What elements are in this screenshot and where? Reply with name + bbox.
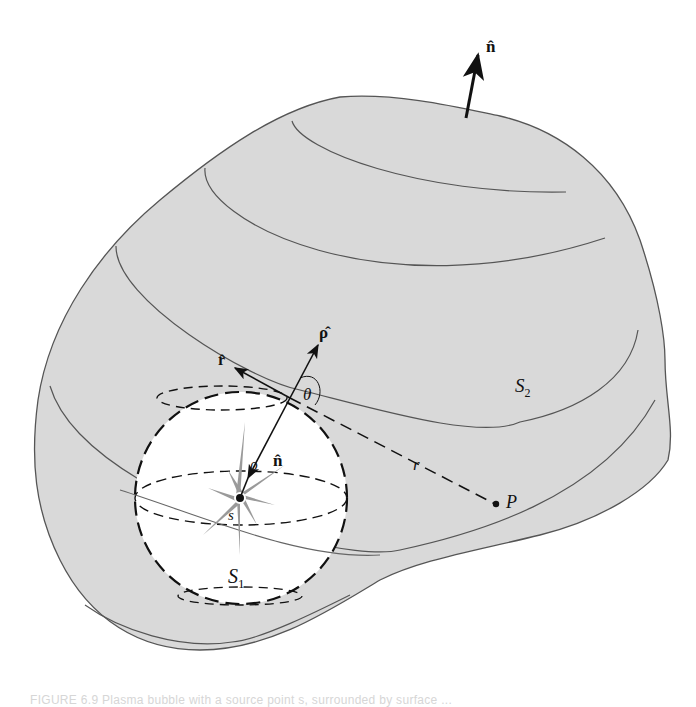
point-p — [493, 501, 499, 507]
n-hat-outer-arrow — [466, 55, 478, 118]
figure-caption: FIGURE 6.9 Plasma bubble with a source p… — [30, 693, 690, 707]
label-r-hat: r̂ — [218, 351, 225, 368]
label-r: r — [413, 455, 420, 474]
outer-surface-s2 — [34, 96, 670, 650]
label-s: s — [228, 507, 234, 523]
label-p: P — [505, 492, 517, 512]
label-n-hat-outer: n̂ — [486, 37, 496, 56]
label-n-hat-inner: n̂ — [273, 451, 283, 470]
label-theta: θ — [303, 385, 311, 404]
label-rho: ρ — [249, 456, 258, 474]
